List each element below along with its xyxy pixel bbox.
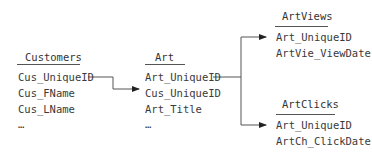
field-ellipsis: … bbox=[18, 118, 24, 130]
field-cus-fname: Cus_FName bbox=[18, 87, 75, 99]
field-art-title: Art_Title bbox=[145, 103, 202, 115]
field-art-uniqueid: Art_UniqueID bbox=[145, 71, 221, 83]
title-underline bbox=[275, 26, 328, 27]
table-title-artviews: ArtViews bbox=[282, 10, 333, 22]
field-artvie-viewdate: ArtVie_ViewDate bbox=[276, 47, 371, 59]
field-cus-lname: Cus_LName bbox=[18, 103, 75, 115]
table-title-artclicks: ArtClicks bbox=[282, 98, 339, 110]
connector-customers-art bbox=[88, 77, 139, 89]
field-ellipsis: … bbox=[145, 118, 151, 130]
field-art-uniqueid: Art_UniqueID bbox=[276, 31, 352, 43]
field-artch-clickdate: ArtCh_ClickDate bbox=[276, 135, 371, 147]
title-underline bbox=[145, 64, 185, 65]
table-title-art: Art bbox=[155, 51, 174, 63]
field-art-uniqueid: Art_UniqueID bbox=[276, 119, 352, 131]
title-underline bbox=[17, 64, 80, 65]
field-cus-uniqueid: Cus_UniqueID bbox=[18, 71, 94, 83]
table-title-customers: Customers bbox=[25, 51, 82, 63]
title-underline bbox=[276, 114, 335, 115]
field-cus-uniqueid: Cus_UniqueID bbox=[145, 87, 221, 99]
